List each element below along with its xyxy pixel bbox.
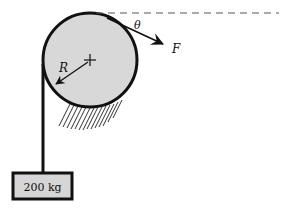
hatch-line: [63, 105, 74, 127]
force-label: F: [171, 42, 181, 56]
radius-label: R: [58, 61, 68, 75]
diagram-svg: R θ F 200 kg: [0, 0, 282, 214]
physics-diagram-canvas: R θ F 200 kg: [0, 0, 282, 214]
hatch-line: [59, 104, 70, 126]
hatch-line: [67, 106, 78, 128]
angle-label: θ: [134, 19, 141, 32]
hanging-block-label: 200 kg: [23, 181, 61, 194]
